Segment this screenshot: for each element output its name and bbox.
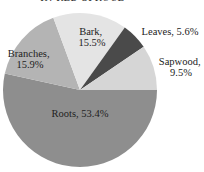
label-sapwood: Sapwood, 9.5%	[159, 56, 203, 78]
pie-chart: Roots, 53.4% Branches, 15.9% Bark, 15.5%…	[0, 0, 204, 172]
label-bark: Bark, 15.5%	[78, 26, 105, 48]
label-leaves: Leaves, 5.6%	[142, 26, 199, 37]
label-roots: Roots, 53.4%	[52, 108, 109, 119]
